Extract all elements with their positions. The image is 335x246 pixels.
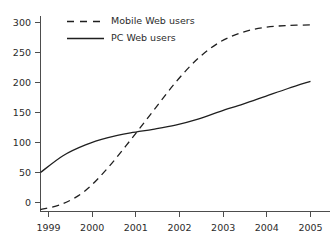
x-axis-ticks: [49, 212, 311, 218]
series-line-mobile-web-users: [41, 25, 311, 210]
legend-label-mobile-web-users: Mobile Web users: [111, 15, 195, 26]
y-tick-label-200: 200: [13, 77, 31, 88]
y-tick-label-50: 50: [19, 167, 31, 178]
y-tick-label-250: 250: [13, 47, 31, 58]
x-tick-label-1999: 1999: [36, 222, 60, 233]
y-tick-label-100: 100: [13, 137, 31, 148]
series-line-pc-web-users: [41, 81, 311, 172]
y-tick-label-150: 150: [13, 107, 31, 118]
legend-label-pc-web-users: PC Web users: [111, 32, 176, 43]
chart-legend: Mobile Web users PC Web users: [67, 15, 195, 43]
y-axis-ticks: [35, 23, 41, 203]
x-tick-label-2003: 2003: [211, 222, 235, 233]
line-chart-canvas: 300 250 200 150 100 50 0 1999 2000 2001 …: [0, 0, 335, 246]
x-tick-label-2001: 2001: [124, 222, 148, 233]
x-tick-label-2004: 2004: [255, 222, 279, 233]
chart-series-group: [41, 25, 311, 210]
chart-axes: [41, 16, 331, 212]
y-tick-label-0: 0: [25, 197, 31, 208]
x-tick-label-2000: 2000: [80, 222, 104, 233]
x-tick-label-2002: 2002: [167, 222, 191, 233]
y-tick-label-300: 300: [13, 17, 31, 28]
x-tick-label-2005: 2005: [298, 222, 322, 233]
x-axis-tick-labels: 1999 2000 2001 2002 2003 2004 2005: [36, 222, 322, 233]
y-axis-tick-labels: 300 250 200 150 100 50 0: [13, 17, 31, 208]
chart-figure: 300 250 200 150 100 50 0 1999 2000 2001 …: [0, 0, 335, 246]
